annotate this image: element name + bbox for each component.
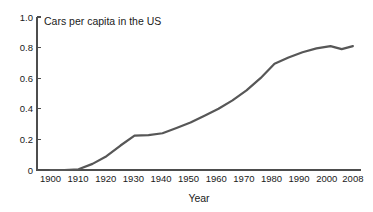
x-tick-label-2008: 2008 bbox=[342, 173, 363, 184]
x-tick-label-1970: 1970 bbox=[233, 173, 254, 184]
x-tick-label-1960: 1960 bbox=[206, 173, 227, 184]
x-tick-label-1940: 1940 bbox=[150, 173, 171, 184]
y-tick-label-0-2: 0.2 bbox=[20, 134, 33, 145]
plot-title: Cars per capita in the US bbox=[44, 15, 161, 27]
y-tick-label-0-6: 0.6 bbox=[20, 73, 33, 84]
x-axis-title: Year bbox=[188, 192, 210, 204]
line-chart-canvas: 1.0 0.8 0.6 0.4 0.2 0 1900 1910 1920 193… bbox=[0, 0, 373, 212]
y-tick-label-0-4: 0.4 bbox=[20, 103, 33, 114]
x-tick-label-1950: 1950 bbox=[178, 173, 199, 184]
x-tick-label-1930: 1930 bbox=[123, 173, 144, 184]
y-tick-label-0-8: 0.8 bbox=[20, 42, 33, 53]
x-tick-label-1920: 1920 bbox=[95, 173, 116, 184]
x-tick-label-1990: 1990 bbox=[289, 173, 310, 184]
y-tick-label-0: 0 bbox=[28, 165, 33, 176]
chart-figure: 1.0 0.8 0.6 0.4 0.2 0 1900 1910 1920 193… bbox=[0, 0, 373, 212]
x-tick-label-1980: 1980 bbox=[261, 173, 282, 184]
x-tick-label-2000: 2000 bbox=[316, 173, 337, 184]
x-tick-label-1910: 1910 bbox=[68, 173, 89, 184]
x-tick-label-1900: 1900 bbox=[40, 173, 61, 184]
y-tick-label-1-0: 1.0 bbox=[20, 12, 33, 23]
